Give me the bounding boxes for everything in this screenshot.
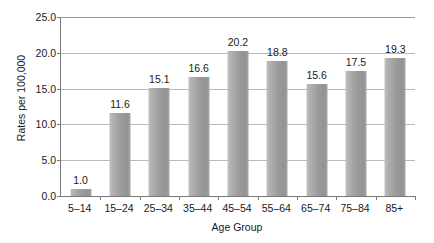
bar-value-label: 17.5 <box>346 56 366 68</box>
bar-value-label: 11.6 <box>110 98 130 110</box>
bar-value-label: 18.8 <box>267 46 287 58</box>
bar[interactable] <box>227 51 248 196</box>
x-axis-tick-label: 85+ <box>385 201 403 215</box>
x-axis-tick-label: 35–44 <box>183 201 212 215</box>
bar[interactable] <box>149 88 170 196</box>
bar[interactable] <box>267 61 288 196</box>
x-axis-tick-mark <box>258 196 259 200</box>
y-axis-tick-label: 25.0 <box>20 11 56 23</box>
bar[interactable] <box>385 58 406 196</box>
plot-area: 1.011.615.116.620.218.815.617.519.3 <box>60 17 415 197</box>
x-axis-tick-mark <box>218 196 219 200</box>
bar-slot: 15.6 <box>297 17 336 196</box>
y-axis-tick-mark <box>57 196 61 197</box>
x-axis-tick-mark <box>376 196 377 200</box>
bar-value-label: 15.1 <box>149 73 169 85</box>
bar-slot: 20.2 <box>218 17 257 196</box>
x-axis-tick-label: 75–84 <box>340 201 369 215</box>
bars-layer: 1.011.615.116.620.218.815.617.519.3 <box>61 17 415 196</box>
x-axis-tick-mark <box>336 196 337 200</box>
x-axis-tick-label: 65–74 <box>301 201 330 215</box>
x-axis-tick-mark <box>179 196 180 200</box>
x-axis-tick-label: 15–24 <box>104 201 133 215</box>
bar-slot: 1.0 <box>61 17 100 196</box>
bar[interactable] <box>345 71 366 196</box>
bar[interactable] <box>306 84 327 196</box>
y-axis-tick-label: 20.0 <box>20 47 56 59</box>
bar-slot: 15.1 <box>140 17 179 196</box>
y-axis-tick-label: 0.0 <box>20 190 56 202</box>
y-axis-tick-label: 5.0 <box>20 154 56 166</box>
bar-value-label: 16.6 <box>188 62 208 74</box>
y-axis-tick-labels: 0.05.010.015.020.025.0 <box>20 10 56 202</box>
y-axis-tick-label: 15.0 <box>20 83 56 95</box>
bar-slot: 18.8 <box>258 17 297 196</box>
x-axis-tick-mark <box>415 196 416 200</box>
bar[interactable] <box>188 77 209 196</box>
bar-value-label: 19.3 <box>385 43 405 55</box>
bar-slot: 16.6 <box>179 17 218 196</box>
bar-slot: 17.5 <box>336 17 375 196</box>
bar-value-label: 1.0 <box>73 174 88 186</box>
y-axis-tick-label: 10.0 <box>20 118 56 130</box>
x-axis-tick-label: 45–54 <box>222 201 251 215</box>
x-axis-title: Age Group <box>60 220 414 234</box>
x-axis-tick-mark <box>297 196 298 200</box>
x-axis-tick-label: 25–34 <box>144 201 173 215</box>
bar-slot: 11.6 <box>100 17 139 196</box>
x-axis-tick-label: 5–14 <box>68 201 91 215</box>
x-axis-tick-label: 55–64 <box>262 201 291 215</box>
bar[interactable] <box>70 189 91 196</box>
bar-value-label: 15.6 <box>306 69 326 81</box>
bar-slot: 19.3 <box>376 17 415 196</box>
x-axis-tick-labels: 5–1415–2425–3435–4445–5455–6465–7475–848… <box>60 201 414 215</box>
bar-value-label: 20.2 <box>228 36 248 48</box>
bar-chart: Rates per 100,000 0.05.010.015.020.025.0… <box>0 0 434 243</box>
x-axis-tick-mark <box>140 196 141 200</box>
x-axis-tick-mark <box>100 196 101 200</box>
bar[interactable] <box>109 113 130 196</box>
